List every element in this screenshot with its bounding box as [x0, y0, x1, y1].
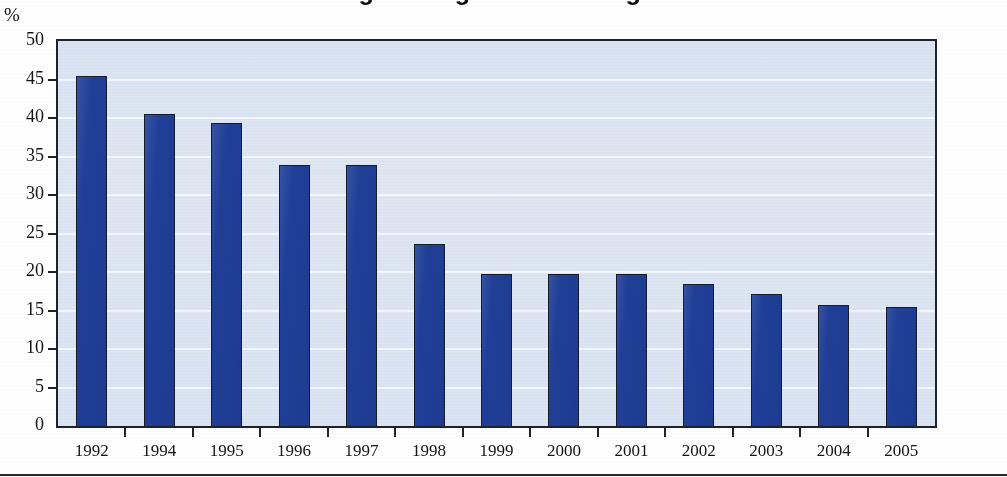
bar-sheen: [819, 306, 848, 426]
x-tick-4: [394, 428, 396, 437]
x-tick-7: [597, 428, 599, 437]
x-tick-label-1997: 1997: [328, 441, 395, 461]
y-tick-40: [48, 117, 57, 119]
bar-series: [58, 41, 935, 426]
y-tick-label-20: 20: [0, 260, 44, 281]
y-tick-35: [48, 156, 57, 158]
bar-2005: [886, 307, 917, 426]
x-tick-9: [732, 428, 734, 437]
x-tick-label-2002: 2002: [665, 441, 732, 461]
bar-sheen: [415, 245, 444, 426]
x-tick-label-1998: 1998: [395, 441, 462, 461]
x-tick-10: [799, 428, 801, 437]
x-tick-6: [529, 428, 531, 437]
x-tick-label-2003: 2003: [733, 441, 800, 461]
bar-sheen: [280, 166, 309, 426]
x-tick-2: [259, 428, 261, 437]
x-tick-11: [867, 428, 869, 437]
y-tick-label-5: 5: [0, 376, 44, 397]
bar-sheen: [77, 77, 106, 426]
chart-title-clipped: Anteil der Bevölkerung mit Migrationshin…: [0, 0, 1007, 14]
x-tick-label-1995: 1995: [193, 441, 260, 461]
y-tick-label-25: 25: [0, 222, 44, 243]
y-tick-10: [48, 348, 57, 350]
bar-sheen: [684, 285, 713, 426]
y-tick-label-30: 30: [0, 183, 44, 204]
x-tick-0: [124, 428, 126, 437]
bar-sheen: [212, 124, 241, 426]
bar-1999: [481, 274, 512, 426]
bar-1995: [211, 123, 242, 426]
y-tick-label-40: 40: [0, 106, 44, 127]
bar-sheen: [347, 166, 376, 426]
bar-1997: [346, 165, 377, 426]
x-tick-label-2004: 2004: [800, 441, 867, 461]
y-tick-label-45: 45: [0, 68, 44, 89]
y-tick-25: [48, 233, 57, 235]
x-tick-8: [664, 428, 666, 437]
y-tick-label-50: 50: [0, 29, 44, 50]
bar-1998: [414, 244, 445, 426]
x-tick-label-2005: 2005: [868, 441, 935, 461]
x-tick-label-1996: 1996: [260, 441, 327, 461]
x-tick-1: [192, 428, 194, 437]
y-tick-label-15: 15: [0, 299, 44, 320]
bar-sheen: [482, 275, 511, 426]
bar-2001: [616, 274, 647, 426]
y-tick-label-35: 35: [0, 145, 44, 166]
bar-2003: [751, 294, 782, 426]
y-tick-5: [48, 387, 57, 389]
bar-sheen: [549, 275, 578, 426]
x-tick-5: [462, 428, 464, 437]
x-tick-label-1999: 1999: [463, 441, 530, 461]
bar-2002: [683, 284, 714, 426]
y-tick-label-10: 10: [0, 337, 44, 358]
y-tick-30: [48, 194, 57, 196]
y-tick-15: [48, 310, 57, 312]
bar-sheen: [752, 295, 781, 426]
bar-2004: [818, 305, 849, 426]
x-tick-3: [327, 428, 329, 437]
bar-1996: [279, 165, 310, 426]
y-tick-20: [48, 271, 57, 273]
y-tick-45: [48, 79, 57, 81]
chart-title-text: Anteil der Bevölkerung mit Migrationshin…: [96, 0, 827, 6]
x-tick-label-2000: 2000: [530, 441, 597, 461]
bar-sheen: [617, 275, 646, 426]
x-tick-label-1992: 1992: [58, 441, 125, 461]
y-axis-labels: 05101520253035404550: [0, 0, 44, 477]
bar-sheen: [887, 308, 916, 426]
bar-sheen: [145, 115, 174, 426]
x-tick-label-1994: 1994: [125, 441, 192, 461]
y-tick-label-0: 0: [0, 414, 44, 435]
x-tick-label-2001: 2001: [598, 441, 665, 461]
plot-area: [56, 39, 937, 428]
bar-1994: [144, 114, 175, 426]
bar-1992: [76, 76, 107, 426]
figure-bottom-rule: [0, 474, 1007, 476]
bar-2000: [548, 274, 579, 426]
